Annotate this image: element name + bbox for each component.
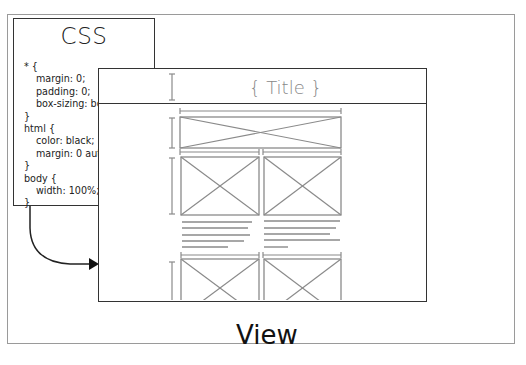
css-code-line: * { (24, 61, 107, 73)
css-code-line: width: 100%; (24, 185, 107, 197)
css-code-line: html { (24, 123, 107, 135)
css-code-block: * {margin: 0;padding: 0;box-sizing: bor}… (24, 61, 107, 210)
css-code-line: } (24, 160, 107, 172)
view-label: View (236, 320, 298, 350)
view-title-placeholder: { Title } (249, 77, 322, 98)
view-header: { Title } (99, 69, 426, 104)
css-code-line: margin: 0; (24, 73, 107, 85)
css-code-line: } (24, 197, 107, 209)
view-window: { Title } (98, 68, 427, 302)
css-panel-title: CSS (14, 23, 154, 49)
css-code-line: body { (24, 173, 107, 185)
css-code-line: padding: 0; (24, 86, 107, 98)
css-code-line: box-sizing: bor (24, 98, 107, 110)
css-code-line: color: black; (24, 135, 107, 147)
css-code-line: } (24, 111, 107, 123)
css-code-line: margin: 0 auto (24, 148, 107, 160)
